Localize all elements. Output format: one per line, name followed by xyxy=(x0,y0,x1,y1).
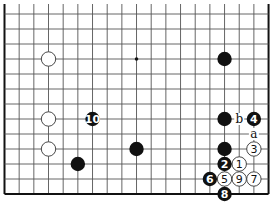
black-stone xyxy=(71,157,85,171)
move-number: 10 xyxy=(85,113,101,126)
move-number: 5 xyxy=(221,173,228,186)
black-stone xyxy=(217,52,231,66)
white-stone: 7 xyxy=(247,172,261,186)
white-stone xyxy=(41,52,55,66)
black-stone: 2 xyxy=(217,157,231,171)
white-stone: 3 xyxy=(247,142,261,156)
white-stone-circle xyxy=(41,142,55,156)
white-stone-circle xyxy=(41,52,55,66)
black-stone: 4 xyxy=(247,112,261,126)
black-stone xyxy=(217,142,231,156)
black-stone-circle xyxy=(217,52,231,66)
star-points xyxy=(135,57,139,61)
point-label-a: a xyxy=(250,127,257,141)
black-stone xyxy=(129,142,143,156)
point-label-b: b xyxy=(235,112,243,126)
white-stone xyxy=(41,112,55,126)
black-stone: 10 xyxy=(85,112,101,126)
black-stone-circle xyxy=(217,112,231,126)
white-stone: 9 xyxy=(232,172,246,186)
move-number: 3 xyxy=(250,143,257,156)
move-number: 4 xyxy=(250,113,258,126)
black-stone: 6 xyxy=(203,172,217,186)
white-stone-circle xyxy=(41,112,55,126)
white-stone: 5 xyxy=(217,172,231,186)
move-number: 9 xyxy=(236,173,243,186)
move-number: 8 xyxy=(221,188,229,201)
black-stone-circle xyxy=(217,142,231,156)
move-number: 2 xyxy=(221,158,229,171)
move-number: 6 xyxy=(206,173,214,186)
black-stone xyxy=(217,112,231,126)
black-stone-circle xyxy=(129,142,143,156)
black-stone: 8 xyxy=(217,187,231,201)
go-board: 12345678910 ab xyxy=(0,0,274,208)
white-stone xyxy=(41,142,55,156)
move-number: 7 xyxy=(250,173,257,186)
black-stone-circle xyxy=(71,157,85,171)
white-stone: 1 xyxy=(232,157,246,171)
star-point xyxy=(135,57,139,61)
move-number: 1 xyxy=(236,158,243,171)
